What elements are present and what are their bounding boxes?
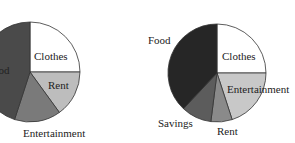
right-label-clothes: Clothes xyxy=(222,50,256,62)
right-label-rent: Rent xyxy=(217,125,238,137)
left-label-clothes: Clothes xyxy=(34,50,68,62)
pie-charts: Clothes Rent Entertainment Food Clothes … xyxy=(0,0,295,143)
pie-slice-clothes xyxy=(217,24,266,73)
left-label-rent: Rent xyxy=(48,79,69,91)
left-pie-chart xyxy=(0,22,80,122)
right-label-food: Food xyxy=(148,34,171,46)
left-label-food: Food xyxy=(0,64,10,76)
right-pie-chart xyxy=(168,24,266,122)
pie-slice-clothes xyxy=(30,22,80,72)
left-label-entertainment: Entertainment xyxy=(23,127,85,139)
right-label-entertainment: Entertainment xyxy=(227,83,289,95)
right-label-savings: Savings xyxy=(158,117,193,129)
